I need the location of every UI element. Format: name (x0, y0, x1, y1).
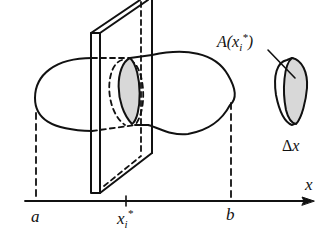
tick-label-xi: xi* (117, 210, 133, 227)
tick-label-a: a (31, 208, 40, 225)
tick-label-b-text: b (226, 205, 235, 224)
solid-outline-right (148, 52, 235, 134)
solid-outline-left (35, 58, 92, 131)
cross-section-shaded (119, 58, 140, 124)
area-fn-text: A(x (217, 33, 239, 50)
tick-label-xi-sup: * (128, 207, 134, 219)
x-axis-label-text: x (305, 175, 313, 194)
area-close-paren: ) (248, 33, 253, 50)
x-axis-label: x (305, 176, 313, 193)
slab-front-edge (91, 33, 100, 193)
slice-shaded-face (284, 58, 307, 124)
tick-label-xi-sub: i (125, 218, 128, 230)
area-label: A(xi*) (217, 34, 253, 50)
delta-var: x (292, 137, 299, 154)
tick-label-a-text: a (31, 207, 40, 226)
delta-symbol: Δ (282, 137, 292, 154)
tick-label-xi-text: x (117, 209, 125, 228)
delta-x-label: Δx (282, 138, 299, 154)
diagram-svg (0, 0, 329, 249)
tick-label-b: b (226, 206, 235, 223)
volume-slicing-diagram: A(xi*) Δx x a xi* b (0, 0, 329, 249)
x-axis-arrowhead (302, 197, 314, 205)
